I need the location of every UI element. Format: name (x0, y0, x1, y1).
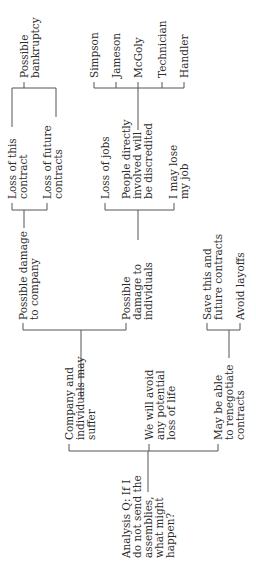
node-loss-future-contracts: Loss of future contracts (42, 125, 64, 199)
node-text: loss of life (166, 370, 177, 440)
node-text: Technician (157, 21, 168, 78)
node-text: contract (18, 138, 29, 199)
node-simpson: Simpson (89, 32, 100, 78)
node-text: be discredited (143, 120, 154, 199)
node-renegotiate: May be able to renegotiate contracts (213, 365, 246, 440)
node-technician: Technician (157, 21, 168, 78)
node-bankruptcy: Possible bankruptcy (19, 17, 41, 78)
node-text: McGoly (133, 37, 144, 78)
node-root: Analysis Q: If I do not send the assembl… (121, 475, 176, 558)
node-loss-this-contract: Loss of this contract (7, 138, 29, 199)
node-avoid-loss-of-life: We will avoid any potential loss of life (144, 370, 177, 440)
node-text: to company (29, 231, 40, 320)
node-damage-individuals: Possible damage to individuals (121, 262, 154, 320)
node-text: bankruptcy (30, 17, 41, 78)
node-text: contracts (53, 125, 64, 199)
node-jameson: Jameson (111, 33, 122, 78)
node-text: Jameson (111, 33, 122, 78)
node-save-contracts: Save this and future contracts (202, 234, 224, 320)
node-text: my job (179, 145, 190, 199)
node-company-individuals: Company and individuals may suffer (64, 357, 97, 440)
node-text: contracts (235, 365, 246, 440)
node-loss-of-jobs: Loss of jobs (100, 136, 111, 199)
node-text: individuals (143, 262, 154, 320)
node-text: future contracts (213, 234, 224, 320)
node-mcgoly: McGoly (133, 37, 144, 78)
node-text: Loss of jobs (100, 136, 111, 199)
node-lose-my-job: I may lose my job (168, 145, 190, 199)
node-text: Simpson (89, 32, 100, 78)
node-handler: Handler (179, 35, 190, 79)
node-text: happen? (165, 475, 176, 558)
node-text: Avoid layoffs (235, 252, 246, 320)
node-damage-company: Possible damage to company (18, 231, 40, 320)
node-text: Handler (179, 35, 190, 79)
node-avoid-layoffs: Avoid layoffs (235, 252, 246, 320)
node-text: suffer (86, 357, 97, 440)
node-people-discredited: People directly involved will be discred… (121, 120, 154, 199)
